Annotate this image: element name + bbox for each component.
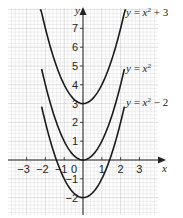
curve-label-x2-minus-2: y = x2 − 2 <box>125 96 168 108</box>
x-axis-label: x <box>161 162 167 174</box>
curve-label-x2-plus-3: y = x2 + 3 <box>125 6 169 18</box>
y-axis-label: y <box>74 4 80 16</box>
y-tick-label: 7 <box>72 22 78 34</box>
y-tick-label: −2 <box>65 192 78 204</box>
y-tick-label: 1 <box>72 135 78 147</box>
curve-label-x2: y = x2 <box>125 62 152 74</box>
y-tick-label: 6 <box>72 41 78 53</box>
graph: −3−2−10123−2−11234567 y x y = x2 + 3 y =… <box>0 0 183 218</box>
y-tick-label: 2 <box>72 116 78 128</box>
x-tick-label: −2 <box>36 163 49 175</box>
x-tick-label: −3 <box>17 163 30 175</box>
y-tick-label: 5 <box>72 60 78 72</box>
x-tick-label: 3 <box>136 163 142 175</box>
x-tick-label: 2 <box>118 163 124 175</box>
y-tick-label: 4 <box>72 79 78 91</box>
